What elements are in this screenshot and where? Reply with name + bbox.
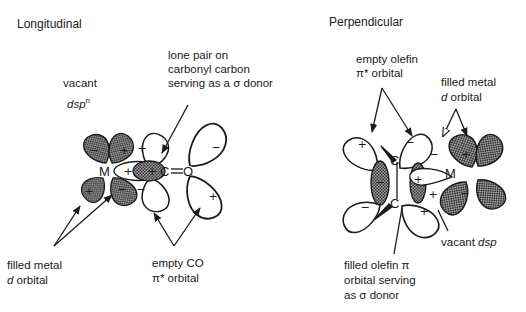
lone-pair-arrow bbox=[162, 105, 188, 153]
svg-text:−: − bbox=[375, 176, 384, 189]
svg-text:−: − bbox=[360, 201, 369, 214]
svg-text:+: + bbox=[428, 188, 437, 201]
longitudinal-diagram bbox=[54, 105, 234, 246]
atom-m-perpendicular: M bbox=[445, 166, 456, 181]
filled-d-arrow-perp-2 bbox=[456, 109, 467, 136]
svg-text:−: − bbox=[211, 141, 220, 154]
empty-co-arrow-1 bbox=[154, 213, 174, 246]
svg-text:−: − bbox=[89, 144, 98, 157]
empty-olefin-arrow-1 bbox=[372, 88, 382, 132]
svg-text:+: + bbox=[137, 142, 146, 155]
atom-c-longitudinal: C bbox=[160, 164, 169, 179]
svg-text:+: + bbox=[413, 173, 422, 186]
svg-text:+: + bbox=[419, 205, 428, 218]
filled-d-arrow-perp-1 bbox=[443, 109, 456, 136]
atom-c-bottom: C bbox=[390, 196, 399, 211]
svg-text:−: − bbox=[117, 183, 126, 196]
svg-text:+: + bbox=[147, 165, 156, 178]
atom-o-longitudinal: O bbox=[183, 164, 193, 179]
perpendicular-diagram bbox=[338, 88, 510, 254]
svg-text:−: − bbox=[136, 183, 145, 196]
atom-m-longitudinal: M bbox=[99, 164, 110, 179]
filled-olefin-leader bbox=[394, 208, 402, 254]
svg-text:+: + bbox=[84, 185, 93, 198]
atom-c-top: C bbox=[390, 153, 399, 168]
svg-text:+: + bbox=[119, 144, 128, 157]
metal-d-lobe-lower-right-perp bbox=[468, 172, 510, 215]
svg-text:+: + bbox=[357, 138, 366, 151]
svg-text:+: + bbox=[208, 190, 217, 203]
svg-text:−: − bbox=[405, 136, 414, 149]
orbital-diagram: M C O C C M − + + − + − + + − + + − − + … bbox=[0, 0, 526, 312]
svg-text:−: − bbox=[429, 148, 438, 161]
empty-co-arrow-2 bbox=[174, 208, 200, 246]
svg-text:+: + bbox=[461, 148, 470, 161]
svg-text:+: + bbox=[123, 165, 132, 178]
empty-olefin-arrow-2 bbox=[382, 88, 412, 136]
filled-d-arrow-2 bbox=[54, 195, 112, 246]
svg-text:−: − bbox=[460, 187, 469, 200]
